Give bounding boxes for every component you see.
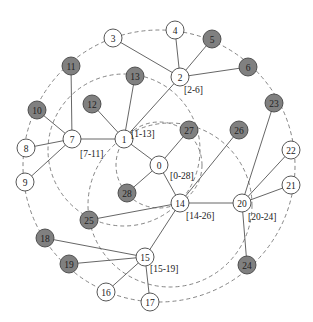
node-17: 17 — [141, 293, 159, 311]
node-7: 7 — [63, 130, 81, 148]
edge-15-18 — [45, 238, 145, 257]
node-27: 27 — [180, 121, 198, 139]
edge-14-15 — [145, 203, 180, 257]
node-label: 9 — [23, 178, 28, 188]
range-label: [7-11] — [80, 149, 103, 159]
node-13: 13 — [126, 67, 144, 85]
edge-14-25 — [89, 203, 180, 220]
node-0: 0 — [150, 156, 168, 174]
node-23: 23 — [265, 94, 283, 112]
node-label: 23 — [269, 99, 279, 109]
node-16: 16 — [97, 283, 115, 301]
range-label: [15-19] — [150, 264, 179, 274]
node-label: 10 — [32, 106, 42, 116]
range-label: [14-26] — [186, 211, 215, 221]
node-label: 16 — [101, 288, 111, 298]
node-label: 19 — [64, 260, 74, 270]
edge-14-26 — [180, 130, 239, 203]
graph-diagram: 0123456789101112131415161718192021222324… — [0, 0, 313, 322]
node-24: 24 — [238, 256, 256, 274]
node-label: 2 — [178, 73, 183, 83]
node-20: 20 — [233, 194, 251, 212]
range-labels: [1-13][2-6][7-11][0-28][14-26][20-24][15… — [80, 85, 277, 274]
node-label: 11 — [66, 62, 75, 72]
node-5: 5 — [203, 30, 221, 48]
edge-2-3 — [113, 38, 180, 77]
node-9: 9 — [16, 173, 34, 191]
node-4: 4 — [166, 21, 184, 39]
node-8: 8 — [17, 139, 35, 157]
node-label: 8 — [24, 144, 29, 154]
node-26: 26 — [230, 121, 248, 139]
node-label: 7 — [70, 135, 75, 145]
node-label: 21 — [286, 181, 296, 191]
node-label: 6 — [246, 63, 251, 73]
node-label: 22 — [286, 146, 296, 156]
node-12: 12 — [83, 95, 101, 113]
node-label: 1 — [122, 135, 127, 145]
node-22: 22 — [282, 141, 300, 159]
edge-2-6 — [180, 67, 248, 77]
node-label: 5 — [210, 35, 215, 45]
node-label: 17 — [145, 298, 155, 308]
node-18: 18 — [36, 229, 54, 247]
edge-20-22 — [242, 150, 291, 203]
node-label: 26 — [234, 126, 244, 136]
node-3: 3 — [104, 29, 122, 47]
node-label: 13 — [130, 72, 140, 82]
edge-20-23 — [242, 103, 274, 203]
node-21: 21 — [282, 176, 300, 194]
node-10: 10 — [28, 101, 46, 119]
node-label: 27 — [184, 126, 194, 136]
node-14: 14 — [171, 194, 189, 212]
node-label: 20 — [237, 199, 247, 209]
node-label: 25 — [84, 216, 94, 226]
node-25: 25 — [80, 211, 98, 229]
node-11: 11 — [62, 57, 80, 75]
node-label: 14 — [175, 199, 185, 209]
node-label: 28 — [122, 189, 132, 199]
node-label: 24 — [242, 261, 252, 271]
node-label: 15 — [140, 253, 150, 263]
node-label: 3 — [111, 34, 116, 44]
range-label: [2-6] — [184, 85, 203, 95]
node-6: 6 — [239, 58, 257, 76]
range-label: [1-13] — [131, 129, 155, 139]
node-19: 19 — [60, 255, 78, 273]
range-label: [20-24] — [248, 212, 277, 222]
node-label: 18 — [40, 234, 50, 244]
range-label: [0-28] — [170, 171, 194, 181]
node-2: 2 — [171, 68, 189, 86]
node-label: 12 — [87, 100, 97, 110]
node-label: 0 — [157, 161, 162, 171]
node-label: 4 — [173, 26, 178, 36]
edge-7-11 — [71, 66, 72, 139]
node-28: 28 — [118, 184, 136, 202]
